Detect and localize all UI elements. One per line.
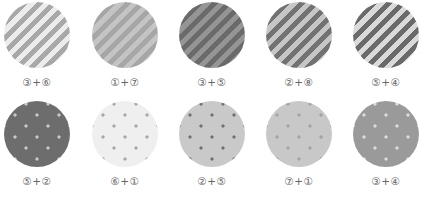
swatch-label: ⑤+④ bbox=[346, 76, 426, 88]
swatch-label: ②+⑧ bbox=[259, 76, 339, 88]
swatch-label: ②+⑤ bbox=[172, 175, 252, 187]
swatch-label: ③+④ bbox=[346, 175, 426, 187]
swatch-dots-7-1 bbox=[266, 101, 332, 167]
swatch-label: ③+⑥ bbox=[0, 76, 77, 88]
swatch-dots-3-4 bbox=[353, 101, 419, 167]
swatch-stripes-1-7 bbox=[92, 2, 158, 68]
swatch-label: ①+⑦ bbox=[85, 76, 165, 88]
swatch-dots-5-2 bbox=[4, 101, 70, 167]
swatch-stripes-2-8 bbox=[266, 2, 332, 68]
swatch-stripes-3-6 bbox=[4, 2, 70, 68]
swatch-dots-6-1 bbox=[92, 101, 158, 167]
swatch-stripes-3-5 bbox=[179, 2, 245, 68]
swatch-label: ③+⑤ bbox=[172, 76, 252, 88]
swatch-dots-2-5 bbox=[179, 101, 245, 167]
swatch-label: ⑤+② bbox=[0, 175, 77, 187]
swatch-label: ⑥+① bbox=[85, 175, 165, 187]
swatch-label: ⑦+① bbox=[259, 175, 339, 187]
swatch-stripes-5-4 bbox=[353, 2, 419, 68]
